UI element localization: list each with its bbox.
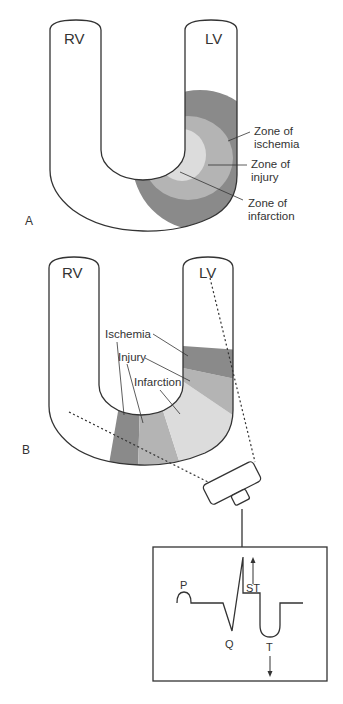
label-injury: Injury bbox=[118, 351, 146, 363]
label-infarction: Infarction bbox=[134, 376, 181, 388]
panel-b: RV LV B Ischemia Injury Infarction bbox=[22, 257, 255, 483]
ecg-st-label: ST bbox=[246, 582, 260, 594]
rv-label-a: RV bbox=[64, 30, 85, 47]
panel-a: RV LV A Zone of ischemia Zone of injury … bbox=[25, 20, 300, 231]
zone-ischemia-line2: ischemia bbox=[254, 138, 300, 150]
panel-b-letter: B bbox=[22, 443, 30, 457]
zone-injury-line2: injury bbox=[251, 171, 279, 183]
lv-label-b: LV bbox=[199, 264, 216, 281]
ecg-p-label: P bbox=[180, 579, 187, 591]
lv-label-a: LV bbox=[205, 30, 222, 47]
sector-ischemia-left bbox=[108, 400, 140, 470]
ecg-t-label: T bbox=[266, 641, 273, 653]
zone-ischemia-line1: Zone of bbox=[254, 125, 294, 137]
rv-label-b: RV bbox=[62, 264, 83, 281]
panel-b-sectors bbox=[108, 346, 240, 470]
ecg-frame bbox=[153, 547, 327, 681]
zone-infarction-line1: Zone of bbox=[248, 197, 288, 209]
electrode-probe bbox=[202, 460, 267, 515]
panel-a-letter: A bbox=[25, 214, 33, 228]
ecg-q-label: Q bbox=[225, 638, 234, 650]
panel-a-zones bbox=[132, 90, 268, 230]
label-ischemia: Ischemia bbox=[105, 328, 152, 340]
zone-injury-line1: Zone of bbox=[251, 158, 291, 170]
myocardial-infarction-diagram: RV LV A Zone of ischemia Zone of injury … bbox=[0, 0, 343, 704]
zone-infarction-line2: infarction bbox=[248, 210, 295, 222]
ecg-monitor: P Q ST T bbox=[153, 547, 327, 681]
